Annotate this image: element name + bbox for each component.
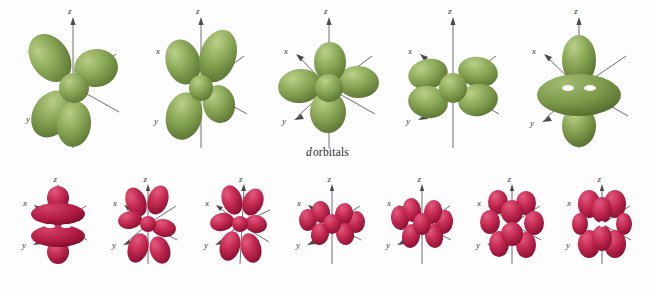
axis-label-z: z <box>53 174 58 184</box>
orbital-figure: z x y <box>0 0 655 291</box>
f-orbital-3-lobes <box>208 183 268 266</box>
d-orbital-3[interactable]: z x y <box>268 0 390 150</box>
axis-label-y: y <box>153 116 158 126</box>
axis-label-y: y <box>565 240 570 250</box>
axis-label-x: x <box>407 46 412 56</box>
axis-label-z: z <box>327 174 332 184</box>
axis-label-y: y <box>295 240 300 250</box>
d-orbital-row: z x y <box>0 0 655 150</box>
axis-label-z: z <box>143 174 148 184</box>
f-orbital-2-lobes <box>117 182 178 266</box>
axis-label-x: x <box>566 198 571 208</box>
axis-label-x: x <box>476 198 481 208</box>
axis-label-z: z <box>67 6 72 16</box>
d-orbital-3-lobes <box>276 42 380 133</box>
axis-label-y: y <box>203 240 208 250</box>
axis-label-y: y <box>25 114 30 124</box>
axis-label-x: x <box>531 46 536 56</box>
axis-label-x: x <box>204 198 209 208</box>
axis-label-x: x <box>283 46 288 56</box>
axis-label-z: z <box>417 174 422 184</box>
d-orbital-5[interactable]: z x y <box>514 0 644 150</box>
axis-label-z: z <box>447 6 452 16</box>
axis-label-y: y <box>111 240 116 250</box>
caption-d-orbitals: dorbitals <box>0 146 655 158</box>
axis-label-x: x <box>22 198 27 208</box>
f-orbital-1[interactable]: z x y <box>14 176 100 266</box>
axis-label-y: y <box>475 240 480 250</box>
f-orbital-6[interactable]: z x y <box>468 176 554 266</box>
axis-label-z: z <box>507 174 512 184</box>
d-orbital-1-lobes <box>20 26 121 149</box>
d-orbital-2-lobes <box>160 25 244 144</box>
f-orbital-1-lobes <box>31 186 85 264</box>
d-orbital-2[interactable]: z x y <box>140 0 262 150</box>
axis-label-y: y <box>405 116 410 126</box>
f-orbital-row: z x y <box>0 176 655 266</box>
axis-label-x: x <box>386 198 391 208</box>
axis-label-y: y <box>529 118 534 128</box>
f-orbital-7[interactable]: z x y <box>558 176 644 266</box>
d-orbital-4[interactable]: z x y <box>392 0 514 150</box>
axis-label-x: x <box>296 198 301 208</box>
axis-label-z: z <box>195 6 200 16</box>
axis-label-z: z <box>597 174 602 184</box>
axis-label-y: y <box>281 116 286 126</box>
caption-d-text: orbitals <box>313 146 349 158</box>
f-orbital-7-lobes <box>572 190 632 258</box>
f-orbital-2[interactable]: z x y <box>104 176 190 266</box>
axis-label-z: z <box>323 6 328 16</box>
axis-label-y: y <box>385 240 390 250</box>
axis-label-z: z <box>573 6 578 16</box>
axis-label-x: x <box>112 198 117 208</box>
d-orbital-5-lobes <box>537 35 621 147</box>
d-orbital-1[interactable]: z x y <box>12 0 134 150</box>
axis-label-x: x <box>155 46 160 56</box>
f-orbital-5[interactable]: z x y <box>378 176 464 266</box>
f-orbital-3[interactable]: z x y <box>196 176 282 266</box>
f-orbital-4[interactable]: z x y <box>288 176 374 266</box>
axis-label-y: y <box>21 240 26 250</box>
caption-d-symbol: d <box>306 146 313 158</box>
axis-label-z: z <box>238 174 243 184</box>
